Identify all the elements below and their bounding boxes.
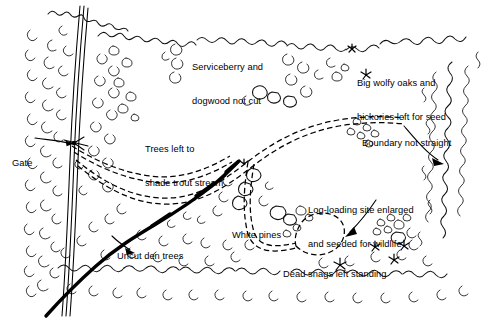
label-dead-snags: Dead snags left standing bbox=[283, 247, 387, 303]
label-serviceberry-line2: dogwood not cut bbox=[192, 96, 263, 107]
label-trees-trout-stream: Trees left to shade trout stream bbox=[145, 122, 223, 212]
snag-icon bbox=[240, 159, 248, 164]
label-big-wolfy-oaks-line1: Big wolfy oaks and bbox=[357, 78, 446, 89]
label-trees-trout-stream-line1: Trees left to bbox=[145, 144, 223, 155]
label-white-pines: White pines bbox=[232, 208, 281, 264]
label-boundary-not-straight-line1: Boundary not straight bbox=[362, 138, 451, 149]
label-gate-line1: Gate bbox=[12, 158, 32, 169]
label-uncut-den-trees-line1: Uncut den trees bbox=[117, 251, 183, 262]
label-serviceberry-line1: Serviceberry and bbox=[192, 62, 263, 73]
access-road bbox=[62, 6, 88, 316]
label-gate: Gate bbox=[12, 136, 32, 192]
label-white-pines-line1: White pines bbox=[232, 230, 281, 241]
label-dead-snags-line1: Dead snags left standing bbox=[283, 269, 387, 280]
forestry-sketch-map: Serviceberry and dogwood not cut Big wol… bbox=[0, 0, 490, 321]
label-serviceberry: Serviceberry and dogwood not cut bbox=[192, 40, 263, 130]
label-log-loading-site-line1: Log-loading site enlarged bbox=[308, 205, 414, 216]
label-trees-trout-stream-line2: shade trout stream bbox=[145, 178, 223, 189]
label-uncut-den-trees: Uncut den trees bbox=[117, 229, 183, 285]
label-boundary-not-straight: Boundary not straight bbox=[362, 116, 451, 172]
